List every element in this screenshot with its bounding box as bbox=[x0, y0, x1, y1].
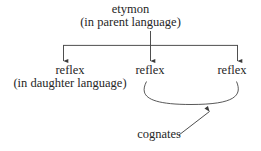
node-parent-language: (in parent language) bbox=[0, 16, 261, 30]
etymon-reflex-diagram: etymon (in parent language) reflex (in d… bbox=[0, 0, 261, 151]
connector-cognate-arc bbox=[144, 82, 238, 105]
node-reflex-middle: reflex bbox=[120, 64, 180, 78]
node-daughter-language: (in daughter language) bbox=[8, 77, 132, 91]
node-reflex-right: reflex bbox=[203, 64, 261, 78]
node-cognates: cognates bbox=[120, 128, 198, 142]
